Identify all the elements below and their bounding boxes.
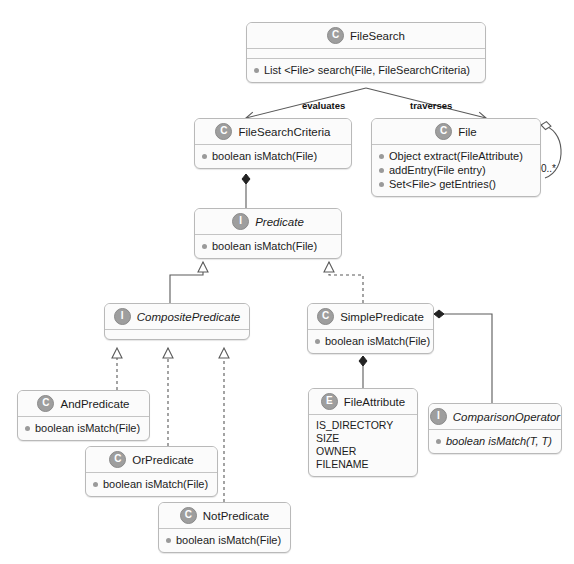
enum-badge-icon: E [321, 393, 338, 410]
method-label: boolean isMatch(T, T) [446, 434, 552, 448]
interface-badge-icon: I [430, 408, 447, 425]
class-badge-icon: C [215, 123, 232, 140]
method-label: Object extract(FileAttribute) [389, 149, 523, 163]
visibility-icon [379, 168, 384, 173]
node-header: I ComparisonOperator [429, 404, 561, 429]
node-header: C NotPredicate [159, 503, 290, 528]
methods-compartment: boolean isMatch(File) [18, 417, 149, 440]
method-row: boolean isMatch(File) [25, 421, 142, 435]
visibility-icon [254, 68, 259, 73]
method-row: boolean isMatch(File) [315, 334, 426, 348]
visibility-icon [379, 154, 384, 159]
method-label: List <File> search(File, FileSearchCrite… [264, 63, 470, 77]
node-file-attribute[interactable]: E FileAttribute IS_DIRECTORY SIZE OWNER … [308, 388, 418, 477]
interface-badge-icon: I [232, 213, 249, 230]
visibility-icon [202, 154, 207, 159]
method-row: boolean isMatch(File) [202, 149, 344, 163]
node-title: FileSearch [350, 30, 405, 42]
visibility-icon [202, 244, 207, 249]
class-badge-icon: C [317, 308, 334, 325]
node-or-predicate[interactable]: C OrPredicate boolean isMatch(File) [85, 446, 218, 497]
multiplicity-label-file-self: 0..* [541, 163, 556, 174]
edge-label-traverses: traverses [410, 100, 452, 111]
node-header: C SimplePredicate [308, 304, 433, 329]
class-badge-icon: C [435, 123, 452, 140]
enum-constant: OWNER [316, 445, 410, 458]
node-title: OrPredicate [132, 454, 193, 466]
methods-compartment: boolean isMatch(File) [159, 529, 290, 552]
node-header: E FileAttribute [309, 389, 417, 414]
method-label: boolean isMatch(File) [212, 239, 317, 253]
method-row: Set<File> getEntries() [379, 177, 533, 191]
constants-compartment: IS_DIRECTORY SIZE OWNER FILENAME [309, 415, 417, 476]
node-simple-predicate[interactable]: C SimplePredicate boolean isMatch(File) [307, 303, 434, 354]
class-badge-icon: C [180, 507, 197, 524]
node-file-search[interactable]: C FileSearch List <File> search(File, Fi… [246, 22, 486, 83]
node-title: Predicate [255, 216, 304, 228]
visibility-icon [25, 426, 30, 431]
methods-compartment: List <File> search(File, FileSearchCrite… [247, 59, 485, 82]
methods-compartment: boolean isMatch(T, T) [429, 430, 561, 453]
node-title: CompositePredicate [137, 311, 241, 323]
node-title: FileSearchCriteria [238, 126, 330, 138]
uml-diagram-canvas: C FileSearch List <File> search(File, Fi… [0, 0, 574, 564]
methods-compartment: boolean isMatch(File) [195, 235, 341, 258]
node-title: AndPredicate [60, 398, 129, 410]
node-title: File [458, 126, 477, 138]
edge-label-evaluates: evaluates [302, 100, 345, 111]
enum-constant: FILENAME [316, 458, 410, 471]
methods-compartment [105, 330, 249, 339]
method-row: List <File> search(File, FileSearchCrite… [254, 63, 478, 77]
node-title: ComparisonOperator [453, 411, 560, 423]
node-comparison-operator[interactable]: I ComparisonOperator boolean isMatch(T, … [428, 403, 562, 454]
node-file[interactable]: C File Object extract(FileAttribute) add… [371, 118, 541, 197]
visibility-icon [436, 439, 441, 444]
visibility-icon [379, 182, 384, 187]
method-label: Set<File> getEntries() [389, 177, 496, 191]
class-badge-icon: C [327, 27, 344, 44]
method-row: boolean isMatch(T, T) [436, 434, 554, 448]
enum-constant: IS_DIRECTORY [316, 419, 410, 432]
method-label: boolean isMatch(File) [103, 477, 208, 491]
node-header: I CompositePredicate [105, 304, 249, 329]
methods-compartment: Object extract(FileAttribute) addEntry(F… [372, 145, 540, 196]
method-row: addEntry(File entry) [379, 163, 533, 177]
edge-composite-extends-predicate [170, 262, 203, 305]
node-title: NotPredicate [203, 510, 269, 522]
node-title: FileAttribute [344, 396, 405, 408]
method-row: boolean isMatch(File) [202, 239, 334, 253]
node-header: C FileSearch [247, 23, 485, 48]
node-composite-predicate[interactable]: I CompositePredicate [104, 303, 250, 340]
node-title: SimplePredicate [340, 311, 424, 323]
methods-compartment: boolean isMatch(File) [86, 473, 217, 496]
visibility-icon [166, 538, 171, 543]
enum-constant: SIZE [316, 432, 410, 445]
methods-compartment: boolean isMatch(File) [195, 145, 351, 168]
node-and-predicate[interactable]: C AndPredicate boolean isMatch(File) [17, 390, 150, 441]
node-not-predicate[interactable]: C NotPredicate boolean isMatch(File) [158, 502, 291, 553]
method-label: boolean isMatch(File) [325, 334, 430, 348]
node-header: C FileSearchCriteria [195, 119, 351, 144]
method-row: Object extract(FileAttribute) [379, 149, 533, 163]
edge-simple-realizes-predicate [329, 262, 363, 303]
class-badge-icon: C [109, 451, 126, 468]
node-predicate[interactable]: I Predicate boolean isMatch(File) [194, 208, 342, 259]
node-header: C AndPredicate [18, 391, 149, 416]
visibility-icon [93, 482, 98, 487]
class-badge-icon: C [37, 395, 54, 412]
edge-simple-composes-comparisonoperator [434, 314, 492, 403]
attributes-compartment [247, 49, 485, 58]
method-label: boolean isMatch(File) [176, 533, 281, 547]
interface-badge-icon: I [114, 308, 131, 325]
method-row: boolean isMatch(File) [93, 477, 210, 491]
method-label: addEntry(File entry) [389, 163, 486, 177]
node-file-search-criteria[interactable]: C FileSearchCriteria boolean isMatch(Fil… [194, 118, 352, 169]
method-label: boolean isMatch(File) [212, 149, 317, 163]
visibility-icon [315, 339, 320, 344]
method-row: boolean isMatch(File) [166, 533, 283, 547]
node-header: I Predicate [195, 209, 341, 234]
node-header: C File [372, 119, 540, 144]
node-header: C OrPredicate [86, 447, 217, 472]
method-label: boolean isMatch(File) [35, 421, 140, 435]
methods-compartment: boolean isMatch(File) [308, 330, 433, 353]
